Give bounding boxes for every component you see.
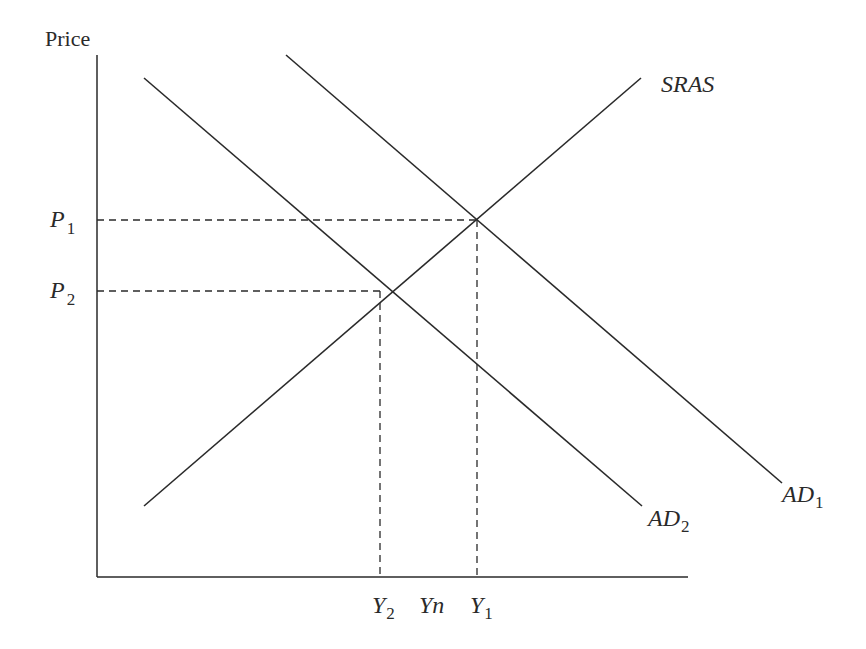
ad1-label: AD1 [780,481,824,512]
yn-label: Yn [419,592,444,618]
y-axis-label: Price [45,26,90,51]
p1-label: P1 [49,206,75,238]
sras-label: SRAS [661,71,714,97]
ad-as-diagram: Price P1 P2 Y2 Yn Y1 SRAS AD1 AD2 [0,0,866,649]
ad1-curve [286,55,782,483]
y2-label: Y2 [372,592,395,623]
y1-label: Y1 [470,592,493,623]
ad2-label: AD2 [646,505,690,536]
p2-label: P2 [49,277,75,309]
